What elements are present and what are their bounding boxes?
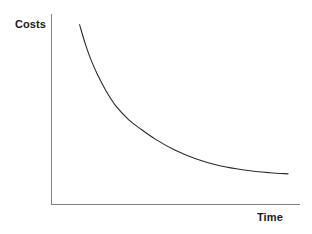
cost-curve <box>80 25 288 174</box>
chart-figure: Costs Time <box>0 0 312 234</box>
x-axis-label: Time <box>257 211 283 223</box>
y-axis-label: Costs <box>15 18 46 30</box>
chart-plot-area <box>0 0 312 234</box>
